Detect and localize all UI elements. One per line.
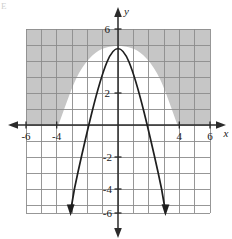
y-axis-arrow-down [114, 228, 122, 238]
x-tick-label--4: -4 [52, 130, 62, 142]
y-tick-label--4: -4 [103, 183, 113, 195]
y-tick-label--2: -2 [103, 151, 112, 163]
x-tick-label-6: 6 [207, 130, 213, 142]
y-tick-label-6: 6 [105, 23, 111, 35]
x-axis-arrow-left [8, 121, 18, 129]
y-tick-label-2: 2 [105, 87, 111, 99]
y-tick-label--6: -6 [103, 207, 113, 219]
graph-figure: -6 -4 4 6 6 2 -2 -4 -6 y x E [0, 0, 232, 239]
y-axis-arrow-up [114, 7, 122, 17]
x-axis-label: x [223, 127, 229, 139]
corner-artifact-mark: E [1, 1, 7, 11]
y-axis-label: y [123, 5, 129, 17]
coordinate-plane: -6 -4 4 6 6 2 -2 -4 -6 y x E [0, 0, 232, 239]
parabola-arrow-right [162, 204, 170, 216]
x-tick-label-4: 4 [177, 130, 183, 142]
parabola-arrow-left [67, 204, 75, 216]
x-tick-label--6: -6 [21, 130, 31, 142]
